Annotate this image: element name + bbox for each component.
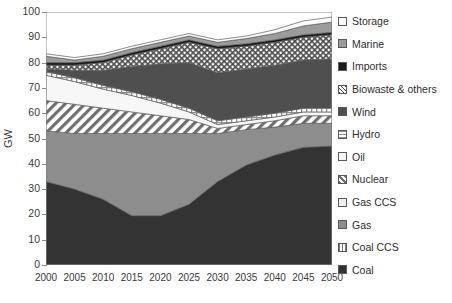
chart-legend: StorageMarineImportsBiowaste & othersWin… <box>338 10 450 281</box>
legend-swatch-icon <box>338 130 347 139</box>
legend-item[interactable]: Gas CCS <box>338 191 450 214</box>
legend-item[interactable]: Hydro <box>338 123 450 146</box>
legend-item-label: Biowaste & others <box>352 83 437 95</box>
legend-item-label: Gas <box>352 219 371 231</box>
legend-swatch-icon <box>338 152 347 161</box>
legend-item[interactable]: Oil <box>338 146 450 169</box>
legend-item-label: Hydro <box>352 128 380 140</box>
legend-swatch-icon <box>338 243 347 252</box>
legend-item-label: Nuclear <box>352 173 388 185</box>
legend-swatch-icon <box>338 62 347 71</box>
legend-item-label: Gas CCS <box>352 196 396 208</box>
legend-swatch-icon <box>338 39 347 48</box>
legend-item-label: Oil <box>352 151 365 163</box>
legend-item-label: Coal CCS <box>352 241 399 253</box>
legend-item[interactable]: Gas <box>338 213 450 236</box>
legend-swatch-icon <box>338 175 347 184</box>
stacked-area-chart: GW 0102030405060708090100 <box>0 0 452 303</box>
legend-swatch-icon <box>338 265 347 274</box>
legend-item[interactable]: Coal CCS <box>338 236 450 259</box>
legend-item-label: Imports <box>352 60 387 72</box>
legend-item-label: Marine <box>352 38 384 50</box>
legend-swatch-icon <box>338 85 347 94</box>
legend-item-label: Storage <box>352 15 389 27</box>
legend-item[interactable]: Coal <box>338 259 450 282</box>
legend-item[interactable]: Imports <box>338 55 450 78</box>
legend-item-label: Coal <box>352 264 374 276</box>
legend-item-label: Wind <box>352 106 376 118</box>
legend-item[interactable]: Storage <box>338 10 450 33</box>
legend-swatch-icon <box>338 107 347 116</box>
legend-item[interactable]: Biowaste & others <box>338 78 450 101</box>
legend-item[interactable]: Marine <box>338 33 450 56</box>
legend-item[interactable]: Nuclear <box>338 168 450 191</box>
legend-swatch-icon <box>338 220 347 229</box>
legend-item[interactable]: Wind <box>338 100 450 123</box>
legend-swatch-icon <box>338 17 347 26</box>
legend-swatch-icon <box>338 198 347 207</box>
